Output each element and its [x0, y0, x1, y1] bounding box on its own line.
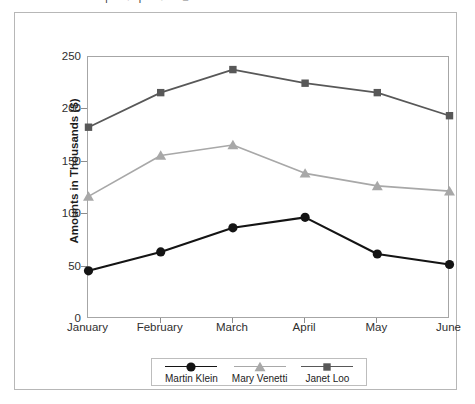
x-axis-tick-labels: JanuaryFebruaryMarchAprilMayJune — [87, 321, 449, 339]
legend-label: Mary Venetti — [232, 373, 288, 384]
legend-item-martin-klein[interactable]: Martin Klein — [158, 361, 225, 384]
series-martin-klein — [84, 213, 454, 276]
data-point-marker — [187, 362, 196, 371]
data-point-marker — [374, 89, 381, 96]
y-tick-label: 100 — [41, 208, 81, 218]
data-point-marker — [301, 213, 310, 222]
data-point-marker — [229, 66, 236, 73]
legend-item-mary-venetti[interactable]: Mary Venetti — [225, 361, 295, 384]
data-point-marker — [324, 363, 331, 370]
y-tick-label: 200 — [41, 103, 81, 113]
legend-marker-square-icon — [319, 360, 335, 374]
data-point-marker — [300, 168, 311, 177]
legend-item-janet-loo[interactable]: Janet Loo — [294, 361, 360, 384]
data-point-marker — [373, 249, 382, 258]
data-point-marker — [83, 191, 94, 200]
legend-marker-triangle-icon — [252, 360, 268, 374]
data-point-marker — [445, 260, 454, 269]
data-point-marker — [227, 140, 238, 149]
legend-swatch — [301, 361, 353, 372]
legend-marker-circle-icon — [183, 360, 199, 374]
legend-label: Janet Loo — [305, 373, 349, 384]
clipped-text-row: | ●| ● ■ — [105, 0, 196, 3]
y-tick-label: 150 — [41, 156, 81, 166]
series-line — [89, 145, 450, 196]
series-line — [89, 217, 450, 270]
series-janet-loo — [85, 66, 453, 131]
data-point-marker — [156, 247, 165, 256]
chart-legend: Martin KleinMary VenettiJanet Loo — [151, 358, 367, 386]
data-point-marker — [84, 266, 93, 275]
plot-area — [87, 56, 449, 318]
y-axis-tick-labels: 050100150200250 — [37, 56, 81, 318]
data-point-marker — [446, 112, 453, 119]
legend-swatch — [165, 361, 217, 372]
data-point-marker — [85, 124, 92, 131]
data-point-marker — [157, 89, 164, 96]
y-tick-label: 250 — [41, 51, 81, 61]
chart-figure: Amounts in Thousands ($) 050100150200250… — [14, 12, 457, 390]
legend-swatch — [234, 361, 286, 372]
x-tick-label: June — [404, 321, 475, 333]
data-point-marker — [254, 361, 265, 370]
clipped-text-above-figure: | ●| ● ■ — [0, 0, 475, 7]
y-tick-label: 50 — [41, 261, 81, 271]
legend-label: Martin Klein — [165, 373, 218, 384]
data-point-marker — [301, 80, 308, 87]
line-chart-canvas — [88, 57, 450, 319]
data-point-marker — [228, 223, 237, 232]
series-mary-venetti — [83, 140, 455, 201]
series-line — [89, 70, 450, 128]
